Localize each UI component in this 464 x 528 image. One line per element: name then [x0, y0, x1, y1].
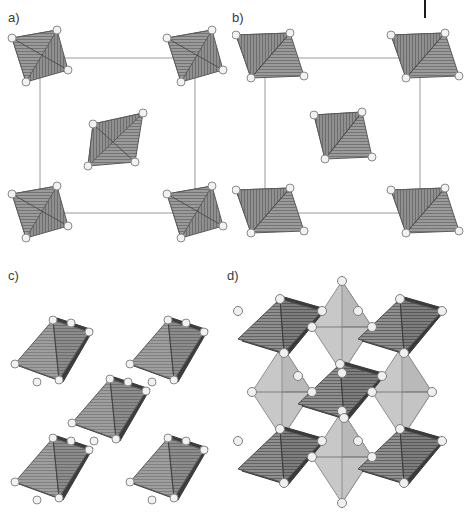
panel-a: a) [0, 0, 232, 264]
panel-b-label: b) [232, 10, 244, 25]
tetrahedron [8, 26, 72, 86]
octahedron-light [312, 281, 372, 373]
figure-canvas: a) [0, 0, 464, 528]
panel-d-artwork [232, 258, 464, 528]
tetrahedron [8, 182, 72, 242]
octahedron [11, 434, 93, 504]
octahedral-network-d [234, 277, 447, 508]
tetrahedron [232, 184, 308, 237]
octahedron [68, 375, 150, 445]
tetrahedron-group-b [232, 29, 463, 237]
panel-d-label: d) [227, 268, 239, 283]
tetrahedron [387, 184, 463, 237]
octahedron-group-c [11, 316, 208, 504]
tetrahedron [163, 182, 227, 242]
panel-a-label: a) [8, 10, 20, 25]
octahedron-light [372, 346, 432, 438]
octahedron [11, 316, 93, 386]
octahedron [126, 434, 208, 504]
panel-b: b) [232, 0, 464, 264]
panel-c: c) [0, 258, 232, 528]
tetrahedron [163, 26, 227, 86]
panel-a-artwork [0, 0, 232, 264]
panel-d: d) [232, 258, 464, 528]
panel-c-label: c) [8, 268, 19, 283]
octahedron-light [312, 411, 372, 503]
tetrahedron [84, 109, 147, 170]
panel-b-artwork [232, 0, 464, 264]
octahedron-light [252, 346, 312, 438]
tetrahedron [387, 29, 463, 82]
octahedron [126, 316, 208, 386]
panel-c-artwork [0, 258, 232, 528]
tetrahedron [232, 29, 308, 82]
tetrahedron [310, 108, 376, 163]
